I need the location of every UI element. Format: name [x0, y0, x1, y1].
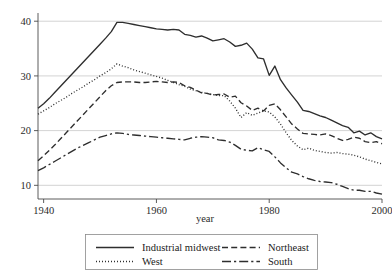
series-line-northeast: [38, 81, 382, 160]
y-tick-label-20: 20: [21, 125, 32, 136]
x-tick-label-1940: 1940: [33, 205, 54, 216]
data-series-group: [38, 22, 382, 194]
series-line-west: [38, 64, 382, 164]
series-line-industrial-midwest: [38, 22, 382, 139]
line-chart-figure: 10203040 1940196019802000 year Industria…: [0, 0, 392, 278]
axes-group: [38, 13, 382, 199]
chart-canvas: 10203040 1940196019802000 year Industria…: [0, 0, 392, 278]
legend-label-west: West: [142, 256, 163, 267]
y-tick-label-10: 10: [21, 180, 32, 191]
x-axis-title: year: [196, 213, 215, 224]
series-line-south: [38, 133, 382, 194]
gridlines-group: [38, 21, 382, 185]
y-tick-label-30: 30: [21, 71, 32, 82]
x-tick-label-1960: 1960: [146, 205, 167, 216]
y-tick-label-40: 40: [21, 16, 32, 27]
legend-label-industrial-midwest: Industrial midwest: [142, 242, 221, 253]
y-axis-ticks-group: 10203040: [21, 16, 39, 191]
legend-label-south: South: [268, 256, 293, 267]
legend-label-northeast: Northeast: [268, 242, 309, 253]
x-tick-label-2000: 2000: [372, 205, 392, 216]
legend: Industrial midwestNortheastWestSouth: [86, 235, 318, 270]
x-tick-label-1980: 1980: [259, 205, 280, 216]
